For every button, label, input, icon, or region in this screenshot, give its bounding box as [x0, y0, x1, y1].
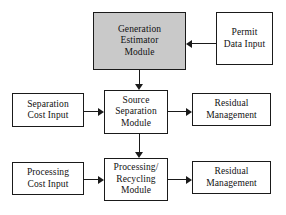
- node-label-line: Data Input: [224, 39, 265, 51]
- node-processing-cost-input[interactable]: Processing Cost Input: [12, 162, 84, 195]
- node-processing-recycling-module[interactable]: Processing/ Recycling Module: [104, 158, 168, 201]
- node-label-line: Management: [206, 110, 257, 122]
- node-source-separation-module[interactable]: Source Separation Module: [104, 90, 168, 134]
- node-label-line: Recycling: [116, 174, 155, 186]
- node-label-line: Estimator: [121, 35, 159, 47]
- node-label-line: Cost Input: [28, 179, 69, 191]
- node-label-line: Cost Input: [28, 110, 69, 122]
- node-permit-data-input[interactable]: Permit Data Input: [216, 12, 273, 65]
- edge-processing-to-residualbottom-line: [168, 179, 186, 180]
- node-residual-management-top[interactable]: Residual Management: [192, 93, 271, 126]
- edge-generation-to-source-line: [139, 70, 140, 84]
- flow-diagram: Generation Estimator Module Permit Data …: [0, 0, 286, 215]
- edge-permit-to-generation-line: [192, 43, 216, 44]
- edge-proccost-to-processing-arrowhead: [98, 176, 104, 184]
- node-label-line: Management: [206, 178, 257, 190]
- node-residual-management-bottom[interactable]: Residual Management: [192, 161, 271, 194]
- node-label-line: Module: [124, 47, 154, 59]
- edge-proccost-to-processing-line: [84, 179, 98, 180]
- node-separation-cost-input[interactable]: Separation Cost Input: [12, 93, 84, 127]
- node-label-line: Source: [123, 95, 150, 107]
- node-label-line: Separation: [115, 106, 157, 118]
- node-label-line: Separation: [27, 99, 69, 111]
- node-label-line: Module: [121, 185, 151, 197]
- node-label-line: Residual: [214, 98, 248, 110]
- edge-source-to-residualtop-arrowhead: [186, 108, 192, 116]
- edge-permit-to-generation-arrowhead: [186, 40, 192, 48]
- edge-source-to-residualtop-line: [168, 111, 186, 112]
- edge-source-to-processing-line: [139, 134, 140, 152]
- node-label-line: Processing/: [114, 162, 159, 174]
- node-generation-estimator-module[interactable]: Generation Estimator Module: [93, 12, 186, 70]
- node-label-line: Generation: [118, 24, 161, 36]
- node-label-line: Module: [121, 118, 151, 130]
- edge-sepcost-to-source-line: [84, 111, 98, 112]
- node-label-line: Permit: [232, 27, 258, 39]
- edge-sepcost-to-source-arrowhead: [98, 108, 104, 116]
- node-label-line: Residual: [214, 166, 248, 178]
- node-label-line: Processing: [27, 167, 69, 179]
- edge-processing-to-residualbottom-arrowhead: [186, 176, 192, 184]
